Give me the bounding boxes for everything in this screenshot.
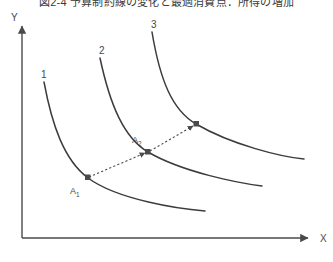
curve-label-3: 3	[151, 19, 157, 30]
figure-root: 図2-4 予算制約線の変化と最適消費点：所得の増加 Y X 1 2 3	[0, 0, 333, 262]
point-label-a1-subscript: 1	[76, 191, 80, 198]
indifference-curve-3	[152, 32, 304, 159]
x-axis-label: X	[320, 233, 327, 244]
indifference-curve-plot: Y X 1 2 3 A1 A2	[0, 0, 333, 262]
point-marker-a3	[194, 121, 200, 127]
point-label-a2: A2	[132, 135, 142, 147]
point-marker-a1	[85, 175, 91, 181]
y-axis-label: Y	[11, 12, 18, 23]
indifference-curve-1	[44, 82, 205, 211]
expansion-path-segment-1	[89, 153, 145, 177]
indifference-curve-2	[100, 58, 262, 186]
expansion-path-segment-2	[150, 126, 193, 151]
point-marker-a2	[145, 149, 151, 155]
curve-label-2: 2	[99, 45, 105, 56]
point-label-a2-subscript: 2	[138, 140, 142, 147]
curve-label-1: 1	[41, 69, 47, 80]
point-label-a1: A1	[70, 186, 80, 198]
